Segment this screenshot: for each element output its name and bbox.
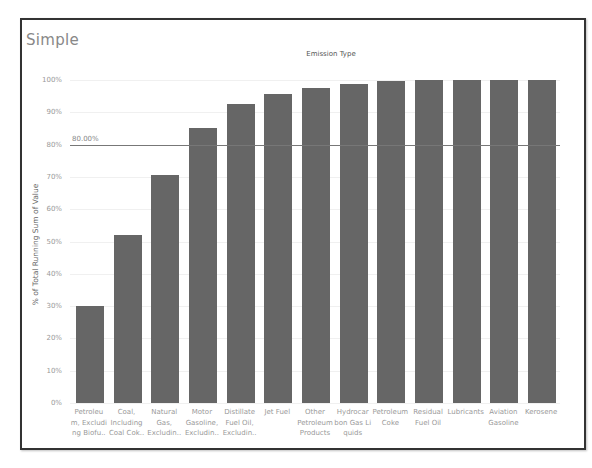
x-tick-label: NaturalGas,Excludin..	[145, 407, 183, 439]
x-tick-label: Petroleum, Excluding Biofu..	[70, 407, 108, 439]
y-tick-label: 100%	[30, 76, 62, 84]
y-tick-label: 40%	[30, 270, 62, 278]
y-tick-label: 50%	[30, 238, 62, 246]
y-tick-label: 90%	[30, 108, 62, 116]
plot-area: 0%10%20%30%40%50%60%70%80%90%100%Petrole…	[70, 80, 560, 403]
y-tick-label: 30%	[30, 302, 62, 310]
y-tick-label: 0%	[30, 399, 62, 407]
bar[interactable]	[189, 128, 217, 403]
bar[interactable]	[227, 104, 255, 403]
reference-line	[70, 145, 560, 146]
bar[interactable]	[490, 80, 518, 403]
bar[interactable]	[340, 84, 368, 403]
x-tick-label: Hydrocarbon Gas Liquids	[334, 407, 372, 439]
bar[interactable]	[528, 80, 556, 403]
x-tick-label: ResidualFuel Oil	[409, 407, 447, 428]
bar[interactable]	[151, 175, 179, 403]
x-tick-label: Jet Fuel	[258, 407, 296, 418]
gridline	[70, 403, 560, 404]
x-tick-label: AviationGasoline	[485, 407, 523, 428]
bar[interactable]	[114, 235, 142, 403]
bar[interactable]	[302, 88, 330, 403]
y-tick-label: 60%	[30, 205, 62, 213]
bar[interactable]	[264, 94, 292, 403]
y-tick-label: 10%	[30, 367, 62, 375]
y-tick-label: 20%	[30, 334, 62, 342]
x-tick-label: Kerosene	[522, 407, 560, 418]
bar[interactable]	[76, 306, 104, 403]
x-tick-label: MotorGasoline,Excludin..	[183, 407, 221, 439]
gridline	[70, 80, 560, 81]
y-tick-label: 70%	[30, 173, 62, 181]
x-tick-label: PetroleumCoke	[372, 407, 410, 428]
x-tick-label: DistillateFuel Oil,Excludin..	[221, 407, 259, 439]
chart-title: Simple	[26, 31, 79, 49]
x-tick-label: Coal,IncludingCoal Cok..	[108, 407, 146, 439]
bar[interactable]	[377, 81, 405, 403]
column-header: Emission Type	[0, 50, 592, 58]
x-tick-label: Lubricants	[447, 407, 485, 418]
y-tick-label: 80%	[30, 141, 62, 149]
x-tick-label: OtherPetroleumProducts	[296, 407, 334, 439]
bar[interactable]	[453, 80, 481, 403]
bar[interactable]	[415, 80, 443, 403]
reference-line-label: 80.00%	[72, 135, 99, 143]
